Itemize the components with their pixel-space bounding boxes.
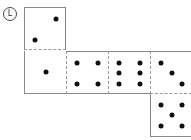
- pip: [54, 17, 59, 22]
- pip: [138, 82, 143, 87]
- pip: [159, 61, 164, 66]
- pip: [138, 61, 143, 66]
- pip: [75, 61, 80, 66]
- die-face-three: [150, 51, 191, 94]
- pip: [180, 103, 185, 108]
- pip: [170, 113, 175, 118]
- pip: [117, 71, 122, 76]
- option-label-l: L: [3, 7, 17, 21]
- pip: [75, 82, 80, 87]
- die-face-two: [24, 7, 66, 50]
- pip: [96, 61, 101, 66]
- pip: [117, 82, 122, 87]
- die-face-one: [24, 51, 66, 94]
- pip: [117, 61, 122, 66]
- pip: [180, 82, 185, 87]
- die-face-five: [150, 94, 191, 137]
- pip: [138, 71, 143, 76]
- die-face-six: [108, 51, 150, 94]
- pip: [159, 124, 164, 129]
- pip: [33, 38, 38, 43]
- pip: [44, 70, 49, 75]
- pip: [159, 103, 164, 108]
- pip: [180, 124, 185, 129]
- pip: [96, 82, 101, 87]
- die-face-four: [66, 51, 108, 94]
- pip: [170, 71, 175, 76]
